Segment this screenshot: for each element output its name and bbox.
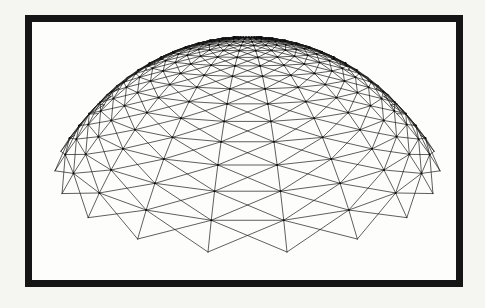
- figure-page: [0, 0, 485, 308]
- dome-wireframe-figure: [0, 0, 485, 308]
